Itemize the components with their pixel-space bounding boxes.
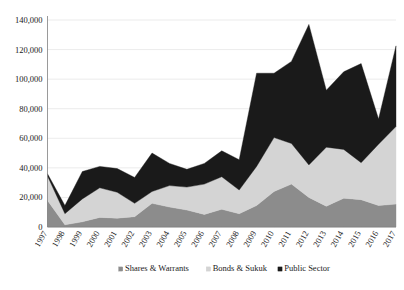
y-tick-label: 140,000 [15,15,43,25]
stacked-area-chart: 020,00040,00060,00080,000100,000120,0001… [0,0,404,290]
x-tick-label: 2001 [102,229,119,249]
x-tick-label: 2013 [311,229,328,249]
legend-label-shares-warrants: Shares & Warrants [125,263,189,273]
x-tick-label: 2015 [346,229,363,249]
legend-label-public-sector: Public Sector [284,263,330,273]
y-tick-label: 40,000 [19,163,42,173]
y-tick-label: 120,000 [15,45,43,55]
chart-legend: Shares & WarrantsBonds & SukukPublic Sec… [119,263,330,273]
x-tick-label: 2003 [137,229,154,249]
legend-marker-shares-warrants [119,267,123,271]
x-tick-label: 1999 [67,229,84,249]
x-tick-label: 2002 [119,229,136,249]
x-tick-label: 2007 [206,229,223,249]
x-tick-label: 2009 [241,229,258,249]
y-tick-label: 60,000 [19,133,42,143]
legend-label-bonds-sukuk: Bonds & Sukuk [213,263,268,273]
area-series-group [48,24,397,227]
legend-marker-public-sector [278,267,282,271]
y-tick-label: 80,000 [19,104,42,114]
chart-svg: 020,00040,00060,00080,000100,000120,0001… [0,0,404,290]
y-tick-label: 20,000 [19,192,42,202]
legend-marker-bonds-sukuk [206,267,210,271]
x-tick-label: 2011 [276,229,293,248]
x-tick-label: 1997 [32,229,49,249]
x-tick-label: 2005 [171,229,188,249]
x-tick-label: 1998 [49,229,66,249]
x-tick-label: 2017 [381,229,398,249]
x-axis-tick-labels: 1997199819992000200120022003200420052006… [32,228,398,248]
x-tick-label: 2016 [363,229,380,249]
x-tick-label: 2000 [84,229,101,249]
x-tick-label: 2012 [293,229,310,249]
y-axis-tick-labels: 020,00040,00060,00080,000100,000120,0001… [15,15,43,232]
x-tick-label: 2004 [154,228,172,248]
x-tick-label: 2014 [328,228,346,248]
y-tick-label: 100,000 [15,74,43,84]
x-tick-label: 2008 [224,229,241,249]
x-tick-label: 2006 [189,229,206,249]
x-tick-label: 2010 [259,229,276,249]
